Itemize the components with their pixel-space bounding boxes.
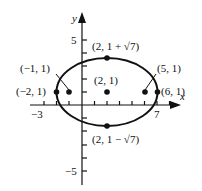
- y-tick-label-min: −5: [65, 165, 77, 177]
- label-right-vertex: (6, 1): [161, 85, 185, 98]
- x-tick-label-max: 7: [154, 108, 160, 120]
- label-left-focus: (−1, 1): [20, 62, 50, 75]
- x-tick-label-min: −3: [31, 108, 43, 120]
- label-right-focus: (5, 1): [157, 62, 181, 75]
- ellipse-diagram: y x 5 −5 −3 7 (2, 1 + √7) (2, 1) (2, 1 −…: [0, 0, 202, 191]
- y-axis-label: y: [71, 12, 77, 24]
- label-bottom-vertex: (2, 1 − √7): [92, 133, 139, 146]
- point-right-focus: [142, 89, 148, 95]
- x-axis-arrow-icon: [170, 101, 181, 109]
- y-axis-arrow-icon: [78, 12, 86, 23]
- label-left-vertex: (−2, 1): [16, 85, 46, 98]
- y-axis: [82, 22, 87, 185]
- label-center: (2, 1): [94, 74, 118, 87]
- point-center: [104, 89, 110, 95]
- point-top-vertex: [104, 55, 110, 61]
- y-tick-label-max: 5: [71, 34, 77, 46]
- x-axis: [30, 101, 172, 105]
- point-left-focus: [66, 89, 72, 95]
- label-top-vertex: (2, 1 + √7): [92, 40, 139, 53]
- point-right-vertex: [155, 89, 161, 95]
- point-left-vertex: [54, 89, 60, 95]
- point-bottom-vertex: [104, 123, 110, 129]
